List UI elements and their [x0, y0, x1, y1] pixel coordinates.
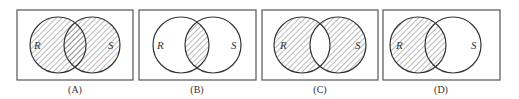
panel-c: R S (C)	[262, 10, 378, 96]
set-s-label: S	[231, 39, 237, 51]
set-s-label: S	[355, 39, 361, 51]
set-r-label: R	[395, 39, 403, 51]
panel-caption: (B)	[190, 84, 203, 96]
set-r-label: R	[279, 39, 287, 51]
set-r-label: R	[33, 39, 41, 51]
panel-d: R S (D)	[383, 10, 500, 96]
panel-caption: (D)	[434, 84, 448, 96]
panel-a: R S (A)	[17, 10, 133, 96]
panel-b: R S (B)	[139, 10, 256, 96]
set-r-label: R	[156, 39, 164, 51]
set-s-label: S	[471, 39, 477, 51]
panel-caption: (A)	[68, 84, 82, 96]
panel-caption: (C)	[313, 84, 326, 96]
set-s-label: S	[108, 39, 114, 51]
venn-diagram-figure: R S (A) R S (B) R S (C) R S (D)	[0, 0, 519, 99]
